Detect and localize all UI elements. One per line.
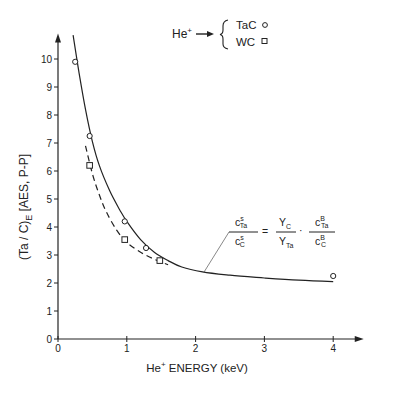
x-tick-label: 2 (193, 343, 199, 354)
mid-denominator: YTa (279, 235, 294, 249)
lhs-numerator: csTa (235, 215, 247, 229)
data-point-wc (157, 258, 163, 264)
y-tick-label: 7 (46, 138, 52, 149)
curve-theory-solid (73, 35, 333, 281)
chart: 01234012345678910 (Ta / C)E [AES, P-P] H… (0, 0, 395, 393)
y-tick-label: 1 (46, 306, 52, 317)
y-tick-label: 6 (46, 166, 52, 177)
y-tick-label: 4 (46, 222, 52, 233)
data-point-tac (143, 245, 148, 250)
axes: 01234012345678910 (41, 34, 364, 354)
y-tick-label: 3 (46, 250, 52, 261)
y-tick-label: 8 (46, 110, 52, 121)
annotation-pointer (204, 232, 229, 272)
mid-numerator: YC (279, 216, 291, 230)
data-point-wc (87, 163, 93, 169)
x-axis-label: He+ ENERGY (keV) (146, 360, 248, 374)
x-tick-label: 4 (330, 343, 336, 354)
data-point-tac (331, 273, 336, 278)
equals-sign: = (262, 225, 268, 237)
legend-arrow-icon (196, 31, 214, 37)
y-tick-label: 2 (46, 278, 52, 289)
x-axis-label-main: He (146, 362, 161, 374)
x-tick-label: 0 (55, 343, 61, 354)
y-axis-arrow-icon (55, 34, 61, 43)
legend-marker-square (262, 39, 267, 44)
legend-marker-circle (263, 23, 268, 28)
y-tick-label: 10 (41, 54, 53, 65)
data-point-tac (87, 133, 92, 138)
y-tick-label: 5 (46, 194, 52, 205)
legend-label-wc: WC (236, 36, 255, 48)
data-point-tac (73, 59, 78, 64)
dot-operator: · (299, 224, 303, 236)
y-tick-label: 0 (46, 334, 52, 345)
curve-theory-dashed (86, 146, 169, 265)
markers (73, 59, 336, 278)
lhs-denominator: csC (235, 234, 245, 248)
legend: He+ TaC WC (172, 19, 267, 49)
x-tick-label: 3 (262, 343, 268, 354)
legend-prefix-main: He (172, 27, 188, 41)
data-point-tac (122, 219, 127, 224)
x-axis-arrow-icon (355, 336, 364, 342)
rhs-denominator: cBC (315, 234, 326, 248)
data-point-wc (122, 237, 128, 243)
rhs-numerator: cBTa (315, 215, 328, 229)
y-axis-label-main: (Ta / C) (17, 221, 31, 260)
curves (73, 35, 333, 281)
legend-prefix: He+ (172, 26, 192, 41)
x-axis-label-rest: ENERGY (keV) (166, 362, 248, 374)
y-tick-label: 9 (46, 82, 52, 93)
x-tick-label: 1 (124, 343, 130, 354)
y-axis-label: (Ta / C)E [AES, P-P] (17, 154, 34, 260)
annotation-formula: csTa csC = YC YTa · cBTa cBC (204, 215, 335, 272)
legend-label-tac: TaC (236, 19, 256, 31)
y-axis-label-rest: [AES, P-P] (17, 154, 31, 215)
legend-prefix-sup: + (187, 26, 192, 35)
legend-brace-icon (220, 20, 228, 49)
